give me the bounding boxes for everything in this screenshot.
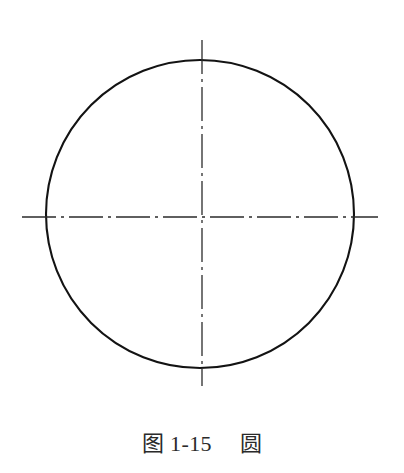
technical-drawing-area [0, 0, 404, 404]
caption-number: 1-15 [170, 429, 212, 459]
figure-root: 图 1-15 圆 [0, 0, 404, 473]
circle-drawing-svg [0, 0, 404, 404]
caption-label: 图 [142, 429, 164, 459]
figure-caption: 图 1-15 圆 [0, 424, 404, 464]
circle-outline [46, 60, 354, 368]
caption-title: 圆 [240, 429, 262, 459]
